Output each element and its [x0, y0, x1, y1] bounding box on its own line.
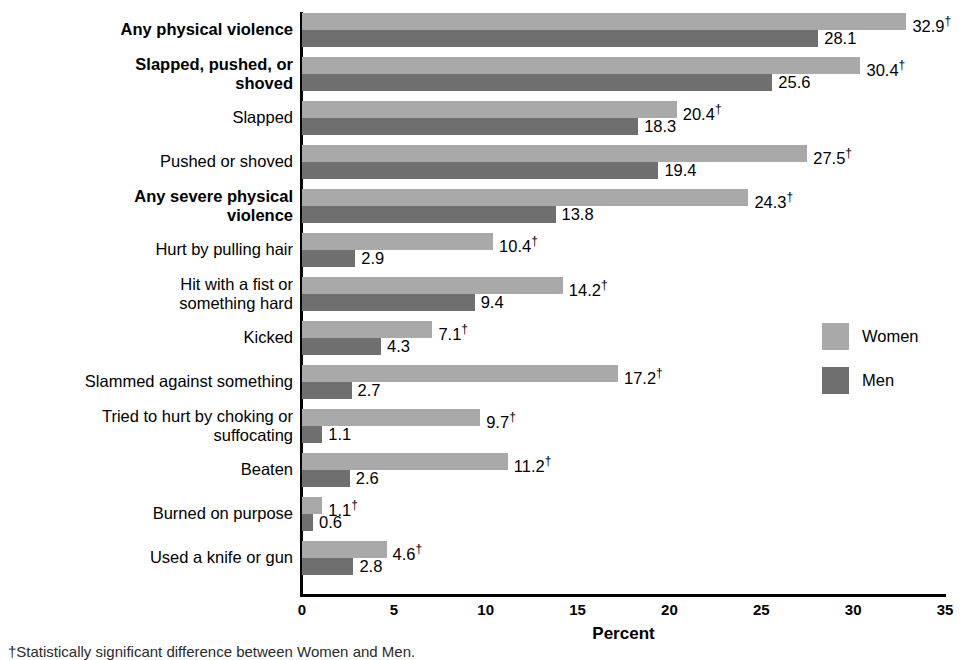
legend-swatch-women-icon: [822, 323, 849, 350]
bar-value-label: 9.7†: [486, 409, 516, 431]
bar-value-label: 2.8: [359, 558, 382, 575]
x-axis-title: Percent: [302, 624, 945, 644]
chart-row: Beaten11.2†2.6: [302, 453, 945, 487]
bar-value-label: 9.4: [481, 294, 504, 311]
chart-row: Hit with a fist or something hard14.2†9.…: [302, 277, 945, 311]
bar-value-label: 27.5†: [813, 145, 852, 167]
footnote: †Statistically significant difference be…: [8, 643, 415, 660]
category-label: Beaten: [0, 460, 293, 479]
category-label: Hit with a fist or something hard: [0, 275, 293, 313]
bar-men: [302, 558, 353, 575]
bar-men: [302, 118, 638, 135]
chart-row: Slapped, pushed, or shoved30.4†25.6: [302, 57, 945, 91]
category-label: Slapped, pushed, or shoved: [0, 55, 293, 93]
significance-marker: †: [656, 366, 663, 380]
x-tick-label: 20: [661, 601, 678, 618]
category-label: Slapped: [0, 108, 293, 127]
significance-marker: †: [545, 454, 552, 468]
bar-value-label: 2.6: [356, 470, 379, 487]
legend-label-women: Women: [862, 327, 919, 346]
significance-marker: †: [509, 410, 516, 424]
legend-item-women: Women: [822, 323, 919, 350]
bar-women: [302, 13, 906, 30]
bar-women: [302, 233, 493, 250]
bar-value-label: 2.7: [358, 382, 381, 399]
bar-value-label: 1.1: [328, 426, 351, 443]
bar-women: [302, 321, 432, 338]
bar-women: [302, 101, 677, 118]
legend-swatch-men-icon: [822, 367, 849, 394]
category-label: Slammed against something: [0, 372, 293, 391]
bar-women: [302, 57, 860, 74]
bar-value-label: 30.4†: [866, 57, 905, 79]
category-label: Burned on purpose: [0, 504, 293, 523]
bar-men: [302, 382, 352, 399]
bar-men: [302, 30, 818, 47]
bar-value-label: 13.8: [562, 206, 594, 223]
chart-row: Pushed or shoved27.5†19.4: [302, 145, 945, 179]
bar-men: [302, 470, 350, 487]
bar-women: [302, 497, 322, 514]
x-tick-label: 30: [845, 601, 862, 618]
bar-value-label: 4.3: [387, 338, 410, 355]
bar-value-label: 17.2†: [624, 365, 663, 387]
x-tick-label: 15: [569, 601, 586, 618]
bar-men: [302, 206, 556, 223]
bar-value-label: 14.2†: [569, 277, 608, 299]
bar-women: [302, 277, 563, 294]
significance-marker: †: [945, 14, 952, 28]
significance-marker: †: [461, 322, 468, 336]
category-label: Kicked: [0, 328, 293, 347]
bar-value-label: 19.4: [664, 162, 696, 179]
significance-marker: †: [899, 58, 906, 72]
chart-row: Hurt by pulling hair10.4†2.9: [302, 233, 945, 267]
bar-women: [302, 541, 387, 558]
significance-marker: †: [601, 278, 608, 292]
category-label: Pushed or shoved: [0, 152, 293, 171]
bar-value-label: 32.9†: [912, 13, 951, 35]
chart-row: Any physical violence32.9†28.1: [302, 13, 945, 47]
significance-marker: †: [845, 146, 852, 160]
bar-women: [302, 409, 480, 426]
chart-row: Tried to hurt by choking or suffocating9…: [302, 409, 945, 443]
bar-value-label: 25.6: [778, 74, 810, 91]
plot-area: Any physical violence32.9†28.1Slapped, p…: [302, 12, 945, 595]
bar-men: [302, 162, 658, 179]
bar-women: [302, 365, 618, 382]
category-label: Any physical violence: [0, 20, 293, 39]
x-tick-label: 5: [390, 601, 398, 618]
bar-women: [302, 453, 508, 470]
significance-marker: †: [787, 190, 794, 204]
bar-women: [302, 145, 807, 162]
bar-men: [302, 426, 322, 443]
significance-marker: †: [415, 542, 422, 556]
category-label: Any severe physical violence: [0, 187, 293, 225]
bar-men: [302, 294, 475, 311]
bar-value-label: 7.1†: [438, 321, 468, 343]
significance-marker: †: [715, 102, 722, 116]
bar-value-label: 11.2†: [514, 453, 552, 475]
bar-value-label: 10.4†: [499, 233, 538, 255]
legend-item-men: Men: [822, 367, 919, 394]
category-label: Used a knife or gun: [0, 548, 293, 567]
bar-value-label: 24.3†: [754, 189, 793, 211]
significance-marker: †: [531, 234, 538, 248]
bar-value-label: 18.3: [644, 118, 676, 135]
category-label: Hurt by pulling hair: [0, 240, 293, 259]
bar-men: [302, 250, 355, 267]
bar-value-label: 2.9: [361, 250, 384, 267]
category-label: Tried to hurt by choking or suffocating: [0, 407, 293, 445]
bar-value-label: 0.6: [319, 514, 342, 531]
chart-row: Burned on purpose1.1†0.6: [302, 497, 945, 531]
bar-value-label: 4.6†: [393, 541, 423, 563]
bar-men: [302, 74, 772, 91]
bar-men: [302, 514, 313, 531]
x-tick-label: 35: [937, 601, 954, 618]
x-tick-label: 25: [753, 601, 770, 618]
chart-row: Any severe physical violence24.3†13.8: [302, 189, 945, 223]
bar-value-label: 28.1: [824, 30, 856, 47]
bar-value-label: 20.4†: [683, 101, 722, 123]
bar-women: [302, 189, 748, 206]
x-tick-label: 0: [298, 601, 306, 618]
